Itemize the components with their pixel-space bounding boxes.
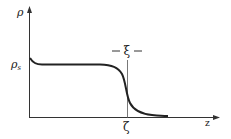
interface-position-label: ζ bbox=[123, 120, 130, 134]
subscript-s: s bbox=[17, 64, 21, 72]
y-axis-label: ρ bbox=[16, 6, 24, 19]
interface-width-label: ξ bbox=[124, 44, 131, 58]
x-axis-arrow-icon bbox=[213, 115, 220, 120]
reference-level-label: ρs bbox=[10, 58, 21, 72]
x-axis-label: z bbox=[205, 118, 210, 128]
density-curve bbox=[30, 58, 168, 116]
diagram-canvas: ρ ρs ξ ζ z bbox=[0, 0, 231, 139]
density-profile-diagram: ρ ρs ξ ζ z bbox=[0, 0, 231, 139]
y-axis-arrow-icon bbox=[27, 6, 32, 13]
